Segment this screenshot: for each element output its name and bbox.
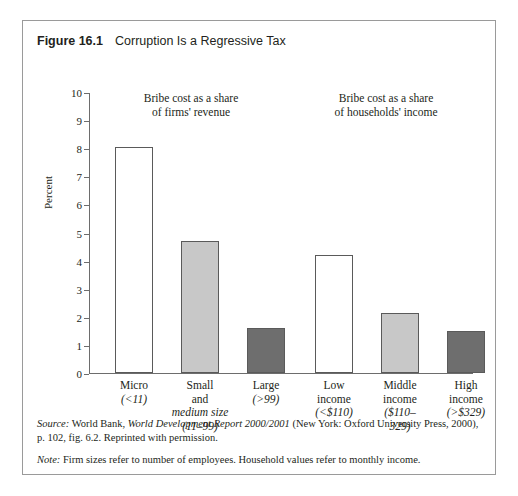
explanatory-note: Note: Firm sizes refer to number of empl… bbox=[37, 453, 481, 467]
chart-bar bbox=[181, 241, 219, 373]
chart-bar bbox=[447, 331, 485, 373]
y-tick-label: 4 bbox=[77, 254, 83, 270]
chart-bar bbox=[381, 313, 419, 373]
page-title: Corruption Is a Regressive Tax bbox=[115, 34, 286, 48]
x-category-label: High income(>$329) bbox=[426, 379, 506, 420]
chart-plot-area: Percent 012345678910 Bribe cost as a sha… bbox=[89, 69, 473, 374]
bars-layer bbox=[89, 93, 473, 374]
chart-bar bbox=[115, 147, 153, 373]
y-tick-label: 1 bbox=[77, 338, 83, 354]
y-tick-label: 3 bbox=[77, 282, 83, 298]
source-lead: Source: bbox=[37, 418, 69, 429]
source-publication: World Development Report 2000/2001 bbox=[128, 418, 290, 429]
y-tick-label: 7 bbox=[77, 169, 83, 185]
y-axis-title: Percent bbox=[42, 176, 54, 209]
source-note: Source: World Bank, World Development Re… bbox=[37, 417, 481, 445]
y-tick-label: 2 bbox=[77, 310, 83, 326]
y-tick-label: 6 bbox=[77, 197, 83, 213]
y-tick-label: 9 bbox=[77, 113, 83, 129]
note-lead: Note: bbox=[37, 454, 60, 465]
figure-title-row: Figure 16.1Corruption Is a Regressive Ta… bbox=[37, 31, 286, 49]
figure-container: Figure 16.1Corruption Is a Regressive Ta… bbox=[22, 20, 496, 475]
figure-number: Figure 16.1 bbox=[37, 34, 103, 48]
y-tick-label: 8 bbox=[77, 141, 83, 157]
y-tick-label: 0 bbox=[77, 366, 83, 382]
figure-notes: Source: World Bank, World Development Re… bbox=[37, 417, 481, 467]
y-tick-mark bbox=[84, 374, 89, 375]
chart-bar bbox=[247, 328, 285, 373]
chart-bar bbox=[315, 255, 353, 373]
note-text: Firm sizes refer to number of employees.… bbox=[60, 454, 420, 465]
x-category-name: High income bbox=[426, 379, 506, 406]
y-tick-label: 5 bbox=[77, 226, 83, 242]
y-tick-label: 10 bbox=[71, 85, 82, 101]
source-text-1: World Bank, bbox=[69, 418, 127, 429]
